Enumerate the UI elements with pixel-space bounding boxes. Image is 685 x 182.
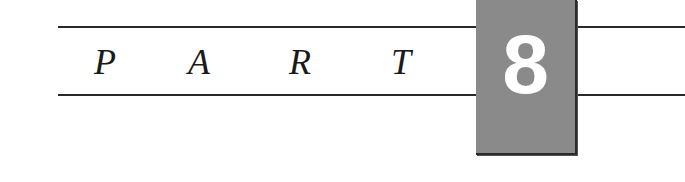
top-rule-left <box>58 26 476 28</box>
top-rule-right <box>577 26 685 28</box>
part-letter-p: P <box>94 44 116 80</box>
part-letter-a: A <box>188 44 210 80</box>
bottom-rule-left <box>58 94 476 96</box>
bottom-rule-right <box>577 94 685 96</box>
part-letter-t: T <box>391 44 411 80</box>
part-number-box: 8 <box>476 0 577 155</box>
part-letter-r: R <box>289 44 311 80</box>
part-number: 8 <box>476 24 575 104</box>
